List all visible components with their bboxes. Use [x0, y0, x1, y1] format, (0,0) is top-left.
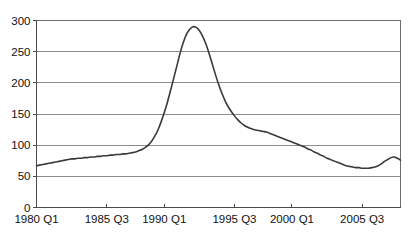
- y-axis-label: 150: [11, 108, 30, 120]
- y-axis-label: 100: [11, 139, 30, 151]
- chart-canvas: 050100150200250300 1980 Q11985 Q31990 Q1…: [0, 0, 420, 239]
- x-axis-label: 2005 Q3: [340, 213, 384, 225]
- x-axis-label: 1980 Q1: [14, 213, 58, 225]
- x-axis-label: 2000 Q1: [270, 213, 314, 225]
- x-axis-label: 1985 Q3: [85, 213, 129, 225]
- chart-background: [0, 0, 420, 239]
- y-axis-label: 250: [11, 46, 30, 58]
- x-axis-label: 1995 Q3: [212, 213, 256, 225]
- line-chart: 050100150200250300 1980 Q11985 Q31990 Q1…: [0, 0, 420, 239]
- y-axis-label: 200: [11, 77, 30, 89]
- x-axis-label: 1990 Q1: [142, 213, 186, 225]
- y-axis-label: 50: [18, 170, 31, 182]
- y-axis-label: 300: [11, 15, 30, 27]
